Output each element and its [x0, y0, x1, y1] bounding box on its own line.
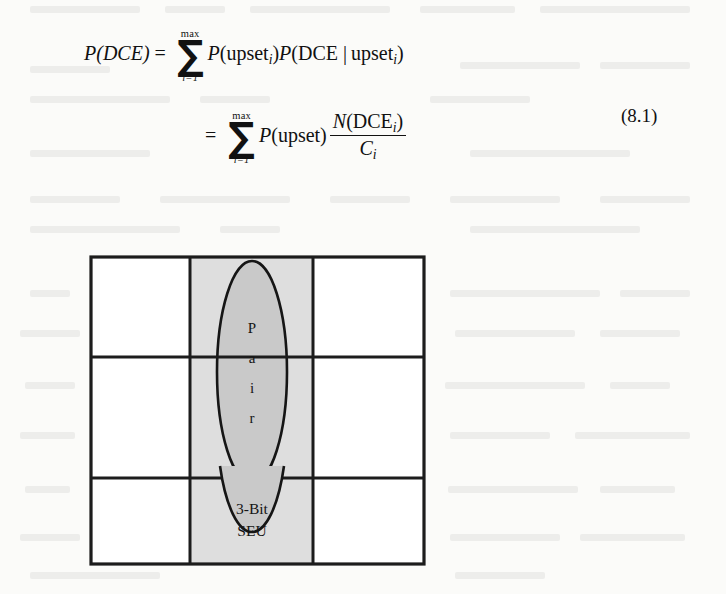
numerator-close-paren: ) — [397, 110, 404, 132]
term2-argument-1: DCE — [298, 42, 338, 64]
conditional-bar-1: | — [338, 43, 351, 63]
term1-function-1: P — [208, 42, 220, 64]
numerator-function: N — [333, 110, 346, 132]
fraction-denominator: Ci — [330, 136, 406, 161]
pair-letter-r: r — [250, 410, 255, 426]
memory-cell-grid-figure: P a i r 3-Bit SEU — [89, 255, 426, 566]
numerator-open-paren: ( — [346, 110, 353, 132]
fraction-numerator: N(DCEi) — [330, 111, 406, 136]
term2-close-paren-1: ) — [397, 42, 404, 64]
summation-1: max∑i=1 — [176, 28, 205, 83]
sum-symbol-1: ∑ — [177, 39, 203, 72]
seu-label-line-2: SEU — [237, 522, 266, 539]
fraction: N(DCEi) Ci — [330, 111, 406, 162]
sum-symbol-2: ∑ — [228, 121, 254, 154]
term1-close-paren-2: ) — [320, 124, 327, 146]
summation-2: max∑i=1 — [227, 110, 256, 165]
equation-relation-1: = — [150, 42, 171, 64]
equation-relation-2: = — [205, 124, 222, 146]
pair-letter-i: i — [250, 380, 254, 396]
equation-lhs: P(DCE) — [84, 42, 150, 64]
pair-letter-a: a — [249, 350, 256, 366]
equation-line-2: =max∑i=1P(upset) N(DCEi) Ci — [205, 110, 407, 165]
term1-argument-2: upset — [278, 124, 320, 146]
denominator-subscript: i — [373, 147, 377, 162]
term1-open-paren-2: ( — [271, 124, 278, 146]
pair-ellipse — [217, 261, 287, 483]
term2-function-1: P — [279, 42, 291, 64]
term1-argument-1: upset — [226, 42, 268, 64]
equation-line-1: P(DCE)=max∑i=1P(upseti)P(DCE|upseti) — [84, 28, 404, 83]
pair-letter-p: P — [248, 320, 256, 336]
term1-function-2: P — [259, 124, 271, 146]
seu-label-line-1: 3-Bit — [236, 500, 269, 517]
numerator-argument: DCE — [353, 110, 393, 132]
term2-open-paren-1: ( — [291, 42, 298, 64]
equation-number: (8.1) — [621, 105, 657, 127]
term2-argument-2: upset — [351, 42, 393, 64]
denominator-variable: C — [359, 137, 372, 159]
